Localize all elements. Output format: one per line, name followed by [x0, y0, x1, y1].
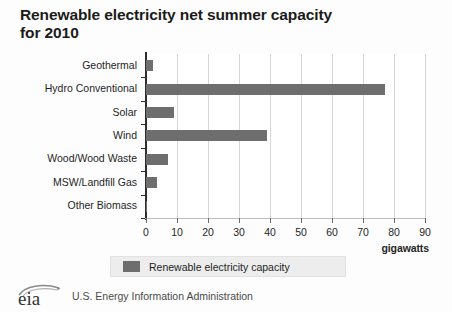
bar — [146, 177, 157, 188]
legend-label: Renewable electricity capacity — [149, 261, 290, 273]
bar — [146, 130, 267, 141]
category-label: Other Biomass — [2, 199, 137, 211]
bar-row: MSW/Landfill Gas — [146, 171, 425, 194]
category-label: MSW/Landfill Gas — [2, 176, 137, 188]
x-axis-tick — [363, 218, 364, 223]
category-label: Solar — [2, 106, 137, 118]
x-axis-tick-label: 20 — [193, 226, 223, 238]
x-axis-tick-label: 30 — [224, 226, 254, 238]
bar — [146, 84, 385, 95]
x-axis-tick — [425, 218, 426, 223]
gridline — [425, 54, 426, 218]
x-axis-tick-label: 50 — [286, 226, 316, 238]
x-axis-tick-label: 80 — [379, 226, 409, 238]
x-axis-tick — [208, 218, 209, 223]
x-axis-tick — [394, 218, 395, 223]
agency-name: U.S. Energy Information Administration — [72, 290, 253, 302]
bar — [146, 107, 174, 118]
legend: Renewable electricity capacity — [110, 256, 346, 277]
x-axis-tick-label: 0 — [131, 226, 161, 238]
x-axis-tick — [239, 218, 240, 223]
legend-swatch-icon — [123, 261, 140, 272]
category-label: Wind — [2, 129, 137, 141]
bar-row: Solar — [146, 101, 425, 124]
bar — [146, 60, 153, 71]
x-axis-tick — [270, 218, 271, 223]
x-axis-tick-label: 90 — [410, 226, 440, 238]
bar-row: Geothermal — [146, 54, 425, 77]
x-axis-tick — [177, 218, 178, 223]
footer: eia U.S. Energy Information Administrati… — [16, 284, 253, 308]
x-axis-label: gigawatts — [381, 242, 429, 254]
x-axis-line — [145, 218, 425, 219]
page-title: Renewable electricity net summer capacit… — [20, 6, 350, 43]
bar-row: Wood/Wood Waste — [146, 148, 425, 171]
x-axis-tick — [146, 218, 147, 223]
category-label: Hydro Conventional — [2, 82, 137, 94]
bar — [146, 154, 168, 165]
category-label: Geothermal — [2, 59, 137, 71]
x-axis-tick — [301, 218, 302, 223]
chart-page: Renewable electricity net summer capacit… — [0, 0, 452, 312]
bar — [146, 201, 147, 212]
category-label: Wood/Wood Waste — [2, 152, 137, 164]
x-axis-tick-label: 70 — [348, 226, 378, 238]
eia-logo: eia — [16, 284, 62, 308]
x-axis-tick-label: 40 — [255, 226, 285, 238]
x-axis-tick-label: 10 — [162, 226, 192, 238]
bar-row: Other Biomass — [146, 195, 425, 218]
x-axis-tick — [332, 218, 333, 223]
plot-area: GeothermalHydro ConventionalSolarWindWoo… — [146, 54, 425, 218]
bar-row: Wind — [146, 124, 425, 147]
bar-row: Hydro Conventional — [146, 77, 425, 100]
x-axis-tick-label: 60 — [317, 226, 347, 238]
eia-wordmark: eia — [18, 289, 40, 308]
